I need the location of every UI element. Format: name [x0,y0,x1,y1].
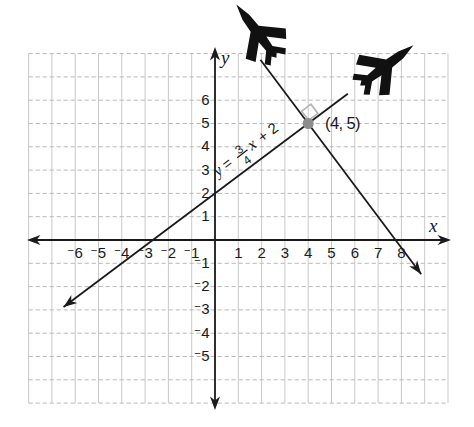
flight-path-lines [61,60,426,311]
equation-rest: + 2 [254,119,281,145]
equation-label: y = 3 4 x + 2 [207,117,287,187]
y-tick-label: −5 [194,347,209,364]
y-tick-label: 3 [201,161,209,178]
grid [29,54,448,404]
x-axis-label: x [428,215,438,236]
x-tick-label: 3 [281,244,289,261]
x-tick-label: −2 [161,244,176,261]
y-tick-label: −4 [194,324,209,341]
coordinate-plane-figure: x y −6−5−4−3−2−112345678654321−1−2−3−4−5… [0,0,474,427]
x-tick-label: 1 [234,244,242,261]
point-label: (4, 5) [325,114,360,132]
y-tick-label: 6 [201,91,209,108]
x-tick-label: 6 [351,244,359,261]
y-tick-label: 5 [201,114,209,131]
x-tick-label: −5 [91,244,106,261]
x-tick-label: 4 [304,244,312,261]
graph-canvas: x y −6−5−4−3−2−112345678654321−1−2−3−4−5… [0,0,474,427]
y-axis-label: y [219,47,230,68]
x-tick-label: −6 [68,244,83,261]
y-tick-label: 4 [201,137,209,154]
x-tick-label: 2 [257,244,265,261]
y-tick-label: −2 [194,277,209,294]
y-tick-label: −1 [194,254,209,271]
airplanes [216,0,428,107]
airplane-icon [343,25,429,107]
y-tick-label: −3 [194,300,209,317]
intersection-point [303,118,314,129]
x-tick-label: 5 [327,244,335,261]
y-tick-label: 1 [201,207,209,224]
x-tick-label: 7 [374,244,382,261]
annotations: y = 3 4 x + 2 (4, 5) [207,104,360,187]
